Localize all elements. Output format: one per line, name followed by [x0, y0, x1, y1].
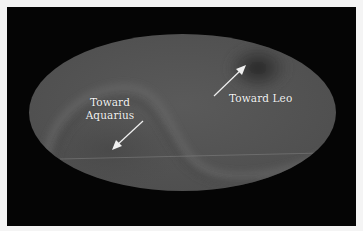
- label-toward-aquarius-line2: Aquarius: [84, 109, 136, 122]
- sky-map: [0, 0, 363, 231]
- dark-hotspot: [224, 42, 292, 94]
- label-toward-aquarius-line1: Toward: [84, 96, 136, 109]
- label-toward-leo: Toward Leo: [229, 92, 289, 105]
- label-toward-aquarius: Toward Aquarius: [84, 96, 136, 121]
- figure-frame: Toward Leo Toward Aquarius: [0, 0, 363, 231]
